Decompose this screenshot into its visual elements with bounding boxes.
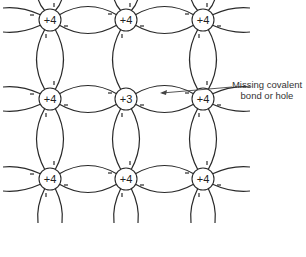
atom-0-1: +4 — [115, 9, 137, 31]
atom-charge-label: +4 — [44, 173, 57, 185]
atom-2-1: +4 — [115, 168, 137, 190]
lattice-diagram: +4+4+4+4+3+4+4+4+4 — [0, 0, 306, 257]
atom-charge-label: +4 — [44, 14, 57, 26]
atom-charge-label: +4 — [197, 93, 210, 105]
atom-charge-label: +4 — [120, 173, 133, 185]
atom-2-0: +4 — [39, 168, 61, 190]
atom-1-1: +3 — [115, 88, 137, 110]
hole-annotation-line2: bond or hole — [228, 90, 306, 101]
hole-annotation-line1: Missing covalent — [228, 79, 306, 90]
atom-charge-label: +4 — [197, 173, 210, 185]
atom-0-2: +4 — [192, 9, 214, 31]
atom-charge-label: +3 — [120, 93, 133, 105]
atom-1-0: +4 — [39, 88, 61, 110]
atom-charge-label: +4 — [44, 93, 57, 105]
atom-charge-label: +4 — [120, 14, 133, 26]
atom-charge-label: +4 — [197, 14, 210, 26]
atom-0-0: +4 — [39, 9, 61, 31]
atom-1-2: +4 — [192, 88, 214, 110]
atom-2-2: +4 — [192, 168, 214, 190]
